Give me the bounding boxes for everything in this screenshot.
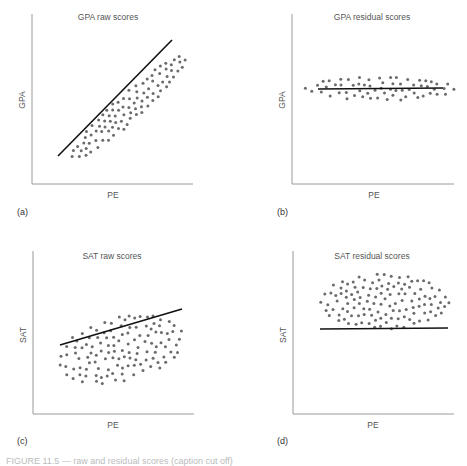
data-point	[420, 84, 423, 87]
data-point	[89, 326, 92, 329]
data-point	[96, 336, 99, 339]
data-point	[111, 372, 114, 375]
data-point	[162, 356, 165, 359]
data-point	[123, 355, 126, 358]
data-point	[416, 96, 419, 99]
data-point	[363, 313, 366, 316]
data-point	[78, 373, 81, 376]
data-point	[386, 98, 389, 101]
data-point	[399, 99, 402, 102]
data-point	[347, 78, 350, 81]
data-point	[376, 273, 379, 276]
data-point	[347, 322, 350, 325]
data-point	[72, 377, 75, 380]
data-point	[412, 306, 415, 309]
data-point	[76, 145, 79, 148]
data-point	[446, 83, 449, 86]
data-point	[155, 345, 158, 348]
data-point	[346, 283, 349, 286]
data-point	[320, 91, 323, 94]
data-point	[416, 279, 419, 282]
data-point	[360, 321, 363, 324]
data-point	[424, 295, 427, 298]
data-point	[129, 117, 132, 120]
data-point	[338, 314, 341, 317]
data-point	[95, 329, 98, 332]
data-point	[117, 101, 120, 104]
data-point	[149, 365, 152, 368]
data-point	[132, 373, 135, 376]
data-point	[316, 84, 319, 87]
data-point	[383, 273, 386, 276]
panel-b-gpa-residual: GPA residual scores GPA PE (b)	[277, 12, 455, 217]
data-point	[356, 291, 359, 294]
data-point	[122, 105, 125, 108]
data-point	[352, 280, 355, 283]
data-point	[350, 293, 353, 296]
data-point	[352, 84, 355, 87]
y-axis-label: SAT	[18, 327, 28, 343]
y-axis-label: SAT	[278, 327, 288, 343]
data-point	[176, 351, 179, 354]
data-point	[164, 345, 167, 348]
regression-line	[60, 309, 182, 345]
data-point	[90, 133, 93, 136]
data-point	[128, 326, 131, 329]
data-point	[95, 380, 98, 383]
data-point	[341, 307, 344, 310]
data-point	[117, 109, 120, 112]
data-point	[97, 367, 100, 370]
data-point	[380, 292, 383, 295]
data-point	[133, 364, 136, 367]
data-point	[379, 325, 382, 328]
data-point	[108, 114, 111, 117]
data-point	[133, 102, 136, 105]
regression-line	[58, 40, 172, 156]
data-point	[397, 317, 400, 320]
data-point	[357, 314, 360, 317]
data-point	[323, 293, 326, 296]
data-point	[379, 317, 382, 320]
data-point	[107, 130, 110, 133]
data-point	[367, 294, 370, 297]
data-point	[304, 87, 307, 90]
data-point	[107, 139, 110, 142]
data-point	[112, 134, 115, 137]
data-point	[113, 350, 116, 353]
data-point	[126, 123, 129, 126]
data-point	[168, 320, 171, 323]
data-point	[438, 289, 441, 292]
data-point	[135, 326, 138, 329]
data-point	[173, 356, 176, 359]
data-point	[430, 303, 433, 306]
data-point	[81, 332, 84, 335]
x-axis-label: PE	[368, 190, 380, 200]
data-point	[447, 301, 450, 304]
x-axis-label: PE	[367, 420, 379, 430]
data-point	[121, 333, 124, 336]
data-point	[82, 141, 85, 144]
data-point	[123, 379, 126, 382]
data-point	[395, 76, 398, 79]
data-point	[84, 375, 87, 378]
data-point	[100, 349, 103, 352]
data-point	[413, 91, 416, 94]
data-point	[111, 109, 114, 112]
data-point	[178, 338, 181, 341]
data-point	[437, 306, 440, 309]
data-point	[410, 280, 413, 283]
data-point	[418, 79, 421, 82]
data-point	[65, 345, 68, 348]
data-point	[385, 321, 388, 324]
data-point	[142, 369, 145, 372]
regression-line	[320, 328, 448, 329]
data-point	[150, 328, 153, 331]
data-point	[422, 279, 425, 282]
data-point	[444, 295, 447, 298]
data-point	[386, 288, 389, 291]
scatter-points	[319, 273, 450, 331]
data-point	[100, 130, 103, 133]
data-point	[117, 127, 120, 130]
data-point	[343, 318, 346, 321]
data-point	[353, 306, 356, 309]
